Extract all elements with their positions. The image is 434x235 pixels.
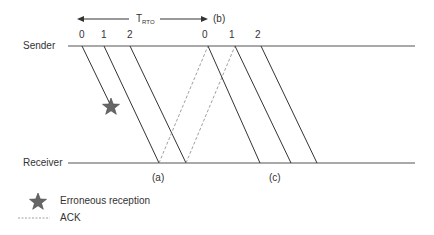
retx-frame-label-2: 2: [255, 29, 261, 40]
marker-a: (a): [152, 172, 164, 183]
ack-1: [159, 46, 208, 163]
frame-label-2: 2: [127, 29, 133, 40]
timer-label: TRTO: [136, 13, 155, 25]
legend-ack-label: ACK: [60, 212, 81, 223]
receiver-label: Receiver: [23, 157, 63, 168]
frame-label-1: 1: [101, 29, 107, 40]
legend-error-label: Erroneous reception: [60, 195, 150, 206]
retx-frame-2: [261, 46, 317, 163]
retx-frame-0: [208, 46, 260, 163]
frame-0-lost: [82, 46, 110, 104]
marker-b: (b): [213, 13, 225, 24]
retx-frame-label-1: 1: [229, 29, 235, 40]
arq-timing-diagram: TRTO (b) 0 1 2 0 1 2 Sender Receiver (a)…: [0, 0, 434, 235]
retx-frame-1: [235, 46, 291, 163]
frame-2: [130, 46, 186, 163]
retx-frame-label-0: 0: [202, 29, 208, 40]
sender-label: Sender: [23, 40, 56, 51]
ack-2: [186, 46, 235, 163]
frame-label-0: 0: [79, 29, 85, 40]
legend-star-icon: [30, 193, 47, 209]
marker-c: (c): [269, 172, 281, 183]
error-star-icon: [103, 98, 120, 114]
